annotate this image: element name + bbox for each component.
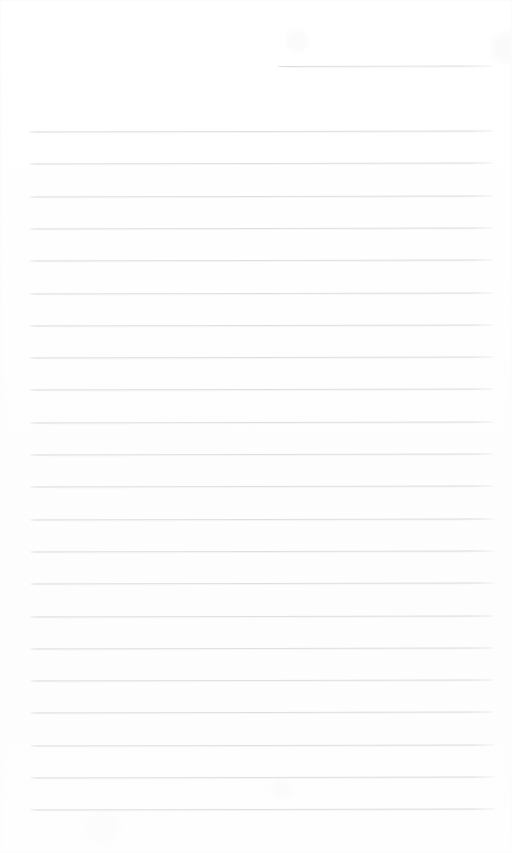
ruling-line — [30, 357, 493, 359]
ruling-line — [30, 453, 493, 455]
ruling-line — [29, 163, 492, 165]
ruling-lines-layer — [0, 0, 512, 853]
ruling-line — [30, 615, 493, 617]
ruling-line — [30, 583, 493, 585]
scanned-page — [0, 0, 512, 853]
ruling-line — [29, 195, 492, 197]
ruling-line — [31, 647, 494, 649]
ruling-line — [31, 744, 494, 746]
ruling-line — [31, 712, 494, 714]
ruling-line — [30, 389, 493, 391]
ruling-line — [30, 292, 493, 294]
ruling-line — [31, 776, 494, 778]
ruling-line — [31, 809, 494, 811]
ruling-line — [30, 324, 493, 326]
ruling-line — [30, 227, 493, 229]
ruling-line — [31, 680, 494, 682]
ruling-line — [30, 260, 493, 262]
ruling-line — [30, 518, 493, 520]
ruling-line — [30, 486, 493, 488]
ruling-line — [29, 130, 492, 132]
ruling-line-short — [277, 65, 492, 66]
ruling-line — [30, 550, 493, 552]
ruling-line — [30, 421, 493, 423]
